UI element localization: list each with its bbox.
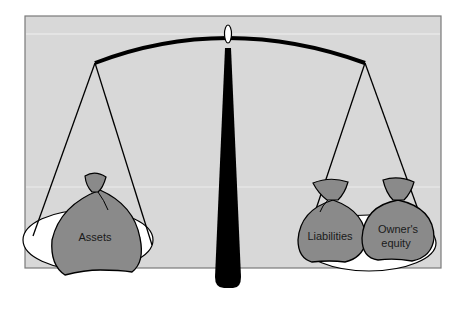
- balance-scale-diagram: Assets Liabilities Owner's equity: [0, 0, 465, 310]
- assets-label: Assets: [78, 231, 112, 243]
- pivot-knob: [225, 25, 232, 43]
- owners-equity-label-line1: Owner's: [378, 223, 418, 235]
- liabilities-label: Liabilities: [307, 230, 353, 242]
- owners-equity-label-line2: equity: [381, 237, 411, 249]
